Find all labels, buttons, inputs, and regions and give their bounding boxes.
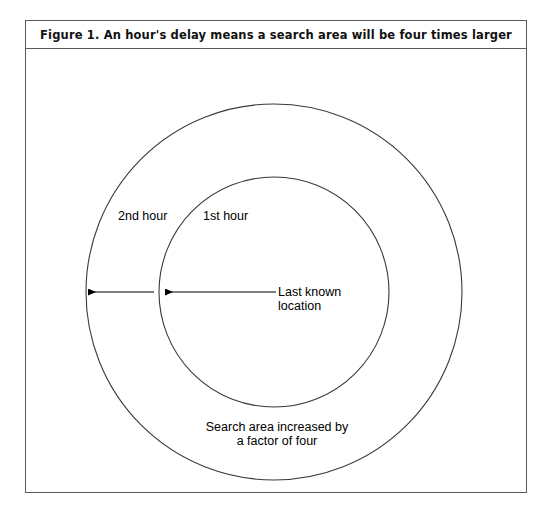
caption-line1: Search area increased by: [26, 421, 528, 435]
caption-line2: a factor of four: [26, 435, 528, 449]
label-2nd-hour: 2nd hour: [118, 210, 167, 224]
last-known-location-line2: location: [278, 299, 321, 313]
figure-canvas: 2nd hour 1st hour Last known location Se…: [26, 49, 526, 493]
caption-search-area: Search area increased by a factor of fou…: [26, 421, 528, 448]
figure-frame: Figure 1. An hour's delay means a search…: [25, 20, 527, 493]
label-last-known-location: Last known location: [278, 286, 341, 313]
figure-title-bar: Figure 1. An hour's delay means a search…: [26, 21, 526, 49]
last-known-location-line1: Last known: [278, 285, 341, 299]
label-1st-hour: 1st hour: [203, 210, 248, 224]
figure-title: Figure 1. An hour's delay means a search…: [40, 28, 512, 42]
